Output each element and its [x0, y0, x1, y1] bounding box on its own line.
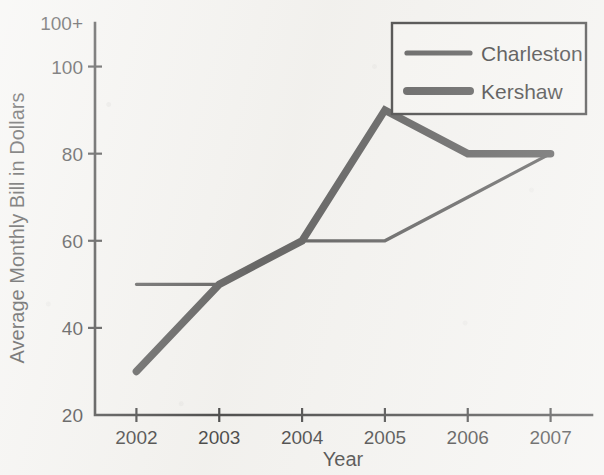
y-tick-label-20: 20 — [62, 405, 83, 426]
legend-label-kershaw: Kershaw — [481, 80, 564, 103]
x-tick-label-2003: 2003 — [198, 427, 240, 448]
line-chart: 100+10080604020 200220032004200520062007… — [0, 0, 604, 475]
x-tick-label-2005: 2005 — [364, 427, 406, 448]
x-axis-title: Year — [323, 448, 364, 470]
y-axis-title: Average Monthly Bill in Dollars — [6, 93, 28, 364]
chart-canvas: 100+10080604020 200220032004200520062007… — [0, 0, 604, 475]
y-tick-label-100+: 100+ — [40, 13, 83, 34]
y-tick-label-60: 60 — [62, 231, 83, 252]
data-series-group — [136, 110, 550, 371]
legend-label-charleston: Charleston — [481, 42, 583, 65]
legend: Charleston Kershaw — [392, 23, 586, 114]
x-tick-label-2007: 2007 — [529, 427, 571, 448]
x-tick-label-2004: 2004 — [281, 427, 324, 448]
x-axis-tick-labels: 200220032004200520062007 — [115, 427, 571, 448]
y-tick-label-80: 80 — [62, 144, 83, 165]
y-tick-label-40: 40 — [62, 318, 83, 339]
y-tick-label-100: 100 — [51, 57, 83, 78]
x-tick-label-2002: 2002 — [115, 427, 157, 448]
x-tick-label-2006: 2006 — [447, 427, 489, 448]
y-axis-tick-labels: 100+10080604020 — [40, 13, 83, 426]
